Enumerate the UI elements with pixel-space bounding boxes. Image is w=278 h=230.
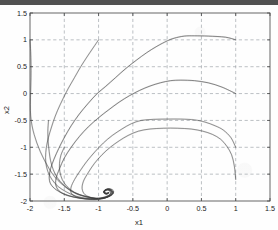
x-tick-label: -0.5 xyxy=(127,204,139,213)
trajectory xyxy=(30,40,113,199)
y-tick-label: -1.5 xyxy=(15,170,27,179)
y-tick-label: 0.5 xyxy=(17,62,27,71)
trajectory xyxy=(59,147,112,198)
y-tick-label: -2 xyxy=(21,197,27,206)
x-tick-label: 0 xyxy=(165,204,169,213)
y-tick-labels: -2-1.5-1-0.500.511.5 xyxy=(15,9,27,206)
x-axis-title: x1 xyxy=(135,218,143,227)
y-tick-label: 1 xyxy=(23,35,27,44)
tick-marks xyxy=(30,13,270,201)
x-tick-labels: -2-1.5-1-0.500.511.5 xyxy=(27,204,275,213)
x-tick-label: 0.5 xyxy=(196,204,206,213)
y-tick-label: 0 xyxy=(23,89,27,98)
trajectory xyxy=(82,128,236,199)
y-axis-title: x2 xyxy=(2,106,11,114)
x-tick-label: -1 xyxy=(95,204,101,213)
plot-canvas: -2-1.5-1-0.500.511.5 -2-1.5-1-0.500.511.… xyxy=(0,0,278,230)
x-tick-label: 1.5 xyxy=(265,204,275,213)
y-tick-label: -1 xyxy=(21,143,27,152)
y-tick-label: -0.5 xyxy=(15,116,27,125)
y-tick-label: 1.5 xyxy=(17,9,27,18)
x-tick-label: -2 xyxy=(27,204,33,213)
trajectory xyxy=(56,80,236,199)
axis-frame xyxy=(30,13,270,201)
trajectory xyxy=(71,119,236,199)
grid-lines xyxy=(30,13,270,201)
x-tick-label: -1.5 xyxy=(58,204,70,213)
phase-portrait-chart: -2-1.5-1-0.500.511.5 -2-1.5-1-0.500.511.… xyxy=(0,0,278,230)
figure-root: -2-1.5-1-0.500.511.5 -2-1.5-1-0.500.511.… xyxy=(0,0,278,230)
x-tick-label: 1 xyxy=(234,204,238,213)
